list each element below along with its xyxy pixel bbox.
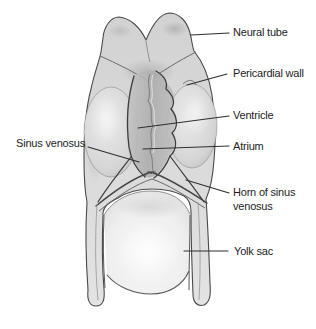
yolk-center-highlight <box>116 222 180 278</box>
label-sinus-venosus: Sinus venosus <box>13 137 85 150</box>
label-pericardial-wall: Pericardial wall <box>233 67 304 80</box>
bulge-left-highlight <box>90 93 122 143</box>
right-lobe-shading <box>162 21 188 37</box>
label-ventricle: Ventricle <box>233 109 273 122</box>
embryo-illustration <box>0 0 316 329</box>
bulge-right-highlight <box>183 91 211 135</box>
leader-line-neural-tube <box>191 33 229 35</box>
label-horn-of-sinus-venosus: Horn of sinus venosus <box>233 186 311 213</box>
left-lobe-shading <box>108 24 132 38</box>
embryo-heart-figure: Neural tube Pericardial wall Ventricle A… <box>0 0 316 329</box>
label-neural-tube: Neural tube <box>233 26 288 39</box>
yolk-top-shading <box>116 195 184 219</box>
label-yolk-sac: Yolk sac <box>234 245 273 258</box>
label-atrium: Atrium <box>233 140 264 153</box>
